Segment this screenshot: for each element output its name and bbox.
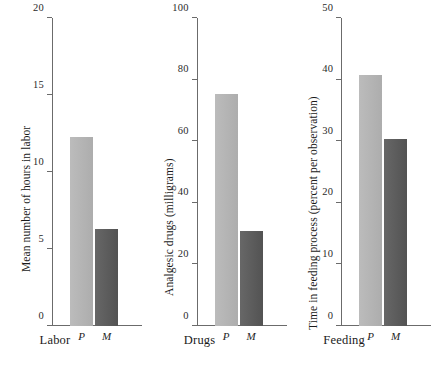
y-tick-label: 10 [33, 156, 44, 167]
panel-title-feeding: Feeding [289, 333, 399, 348]
y-tick-label: 20 [322, 187, 333, 198]
bars-group [197, 18, 273, 326]
plot-area-drugs: 0 20 40 60 80 100 P M [197, 18, 273, 326]
plot-area-labor: 0 5 10 15 20 P M [52, 18, 128, 326]
y-tick-label: 20 [33, 2, 44, 13]
bar-m [384, 139, 407, 326]
bar-p [359, 75, 382, 326]
y-axis-title-feeding: Time in feeding process (percent per obs… [307, 96, 319, 330]
y-tick-label: 80 [178, 64, 189, 75]
y-axis-title-drugs: Analgesic drugs (milligrams) [163, 158, 175, 296]
y-tick-label: 0 [328, 310, 333, 321]
y-tick-label: 60 [178, 125, 189, 136]
plot-area-feeding: 0 10 20 30 40 50 P M [341, 18, 417, 326]
y-tick-label: 40 [322, 64, 333, 75]
panel-title-labor: Labor [0, 333, 110, 348]
y-tick-label: 5 [39, 233, 44, 244]
chart-panel-labor: Mean number of hours in labor 0 5 10 15 … [0, 0, 143, 383]
chart-panel-drugs: Analgesic drugs (milligrams) 0 20 40 60 … [143, 0, 286, 383]
y-axis-title-labor: Mean number of hours in labor [20, 126, 32, 272]
y-tick-label: 20 [178, 249, 189, 260]
panel-title-drugs: Drugs [145, 333, 255, 348]
bars-group [341, 18, 417, 326]
bar-m [95, 229, 118, 326]
y-tick-label: 10 [322, 249, 333, 260]
bar-p [70, 137, 93, 326]
chart-panel-feeding: Time in feeding process (percent per obs… [285, 0, 428, 383]
bar-p [215, 94, 238, 327]
y-tick-label: 15 [33, 79, 44, 90]
bar-m [240, 231, 263, 327]
y-tick-label: 30 [322, 125, 333, 136]
y-tick-label: 40 [178, 187, 189, 198]
y-tick-label: 50 [322, 2, 333, 13]
y-tick-label: 0 [39, 310, 44, 321]
y-tick-label: 0 [183, 310, 188, 321]
bars-group [52, 18, 128, 326]
y-tick-label: 100 [172, 2, 188, 13]
